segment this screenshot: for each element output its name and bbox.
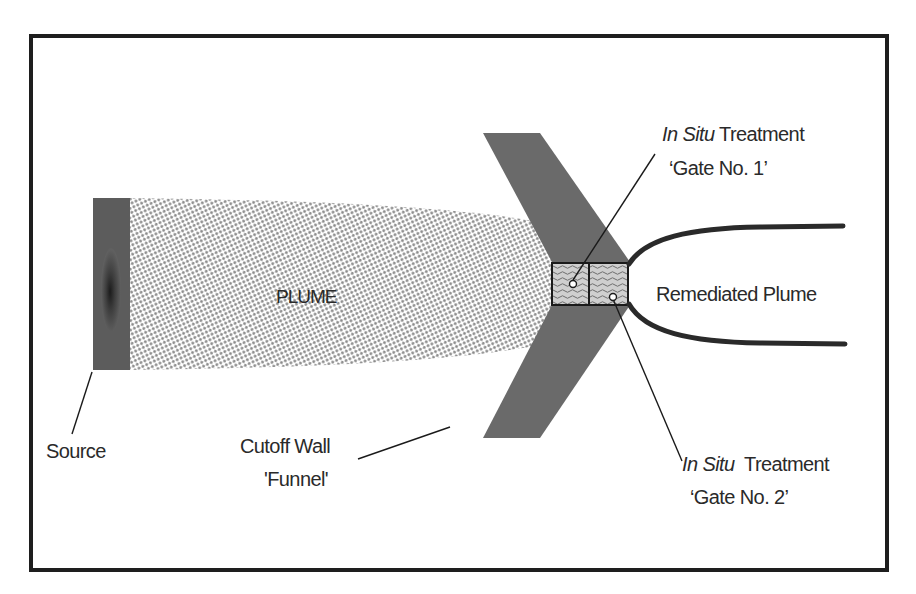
gate1-label-line1: In Situ Treatment	[662, 124, 804, 144]
gate2-label-rest: Treatment	[735, 453, 830, 475]
cutoff-wall-label-line1: Cutoff Wall	[240, 436, 330, 456]
source-core	[101, 248, 121, 332]
source-label: Source	[46, 441, 106, 461]
treatment-gate-2	[589, 263, 628, 305]
source-leader-line	[72, 372, 92, 434]
gate2-marker	[610, 294, 617, 301]
remediated-plume-upper-boundary	[629, 226, 843, 264]
funnel-and-gate-diagram: PLUME Source Cutoff Wall 'Funnel' Remedi…	[0, 0, 916, 594]
gate1-label-italic: In Situ	[662, 123, 715, 145]
gate1-label-line2: ‘Gate No. 1’	[669, 158, 767, 178]
gate2-label-line1: In Situ Treatment	[682, 454, 829, 474]
gate2-label-italic: In Situ	[682, 453, 735, 475]
remediated-plume-label: Remediated Plume	[656, 284, 817, 304]
gate2-label-line2: ‘Gate No. 2’	[690, 487, 788, 507]
cutoff-wall-label-line2: 'Funnel'	[264, 469, 328, 489]
remediated-plume-lower-boundary	[629, 304, 845, 344]
funnel-leader-line	[358, 427, 450, 459]
contaminant-plume	[130, 198, 555, 370]
gate1-label-rest: Treatment	[715, 123, 805, 145]
plume-label: PLUME	[276, 287, 336, 306]
gate1-marker	[570, 281, 577, 288]
